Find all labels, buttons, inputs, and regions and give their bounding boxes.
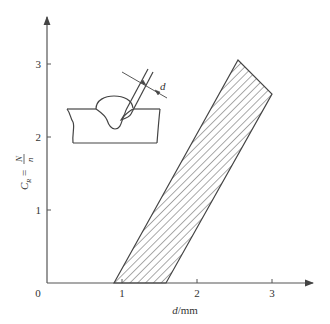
y-axis-title: C R = N n xyxy=(14,154,35,190)
x-tick-label-3: 3 xyxy=(269,287,275,299)
plate-left-edge xyxy=(67,109,74,143)
x-tick-label-0: 0 xyxy=(35,287,41,299)
svg-text:n: n xyxy=(25,157,35,162)
electrode-right xyxy=(131,72,153,114)
inset-dimension-label: d xyxy=(160,80,166,92)
weld-penetration xyxy=(96,109,133,129)
svg-text:=: = xyxy=(18,170,30,176)
hatched-band xyxy=(114,60,272,283)
figure: 0 1 2 3 1 2 3 d/mm C R = N n xyxy=(0,0,330,324)
y-tick-label-3: 3 xyxy=(36,58,42,70)
svg-text:R: R xyxy=(25,178,33,184)
x-tick-label-2: 2 xyxy=(194,287,200,299)
plate-right-edge xyxy=(157,109,160,143)
y-tick-label-1: 1 xyxy=(36,204,42,216)
electrode-left xyxy=(126,69,148,110)
y-tick-label-2: 2 xyxy=(36,131,42,143)
chart-svg: 0 1 2 3 1 2 3 d/mm C R = N n xyxy=(0,0,330,324)
x-axis-title: d/mm xyxy=(172,304,198,316)
x-tick-label-1: 1 xyxy=(119,287,125,299)
weld-inset xyxy=(67,69,167,143)
svg-text:N: N xyxy=(14,155,24,163)
